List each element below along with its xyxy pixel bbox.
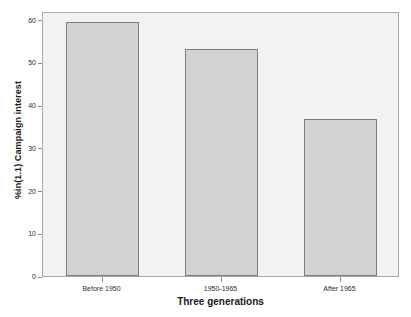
bar — [66, 22, 140, 276]
plot-inner — [43, 13, 398, 276]
x-axis-tick-label: 1950-1965 — [161, 285, 281, 292]
y-axis-tick-label: 10 — [28, 229, 38, 239]
y-axis-title-text: %in(1.1) Campaign interest — [13, 81, 23, 199]
x-axis-tick-label: After 1965 — [280, 285, 400, 292]
bar — [185, 49, 259, 276]
y-axis-tick: 30 — [0, 144, 42, 154]
plot-area — [42, 12, 399, 277]
y-axis-tick: 40 — [0, 101, 42, 111]
y-axis-tick-label: 40 — [28, 101, 38, 111]
y-axis-tick-label: 20 — [28, 187, 38, 197]
y-axis-tick-label: 30 — [28, 144, 38, 154]
y-axis-tick-label: 0 — [32, 272, 38, 282]
bar — [304, 119, 378, 276]
x-axis-title: Three generations — [42, 296, 399, 307]
x-axis-tick-mark — [102, 277, 103, 282]
y-axis-tick: 50 — [0, 58, 42, 68]
y-axis-tick: 0 — [0, 272, 42, 282]
y-axis-tick: 60 — [0, 16, 42, 26]
y-axis-tick-label: 60 — [28, 16, 38, 26]
bar-chart-figure: %in(1.1) Campaign interest 0102030405060… — [0, 0, 411, 317]
y-axis-tick: 10 — [0, 229, 42, 239]
x-axis-tick-mark — [340, 277, 341, 282]
y-axis-title: %in(1.1) Campaign interest — [8, 0, 28, 280]
x-axis-tick-label: Before 1950 — [42, 285, 162, 292]
x-axis-tick-mark — [221, 277, 222, 282]
y-axis-tick-label: 50 — [28, 58, 38, 68]
y-axis-tick: 20 — [0, 187, 42, 197]
